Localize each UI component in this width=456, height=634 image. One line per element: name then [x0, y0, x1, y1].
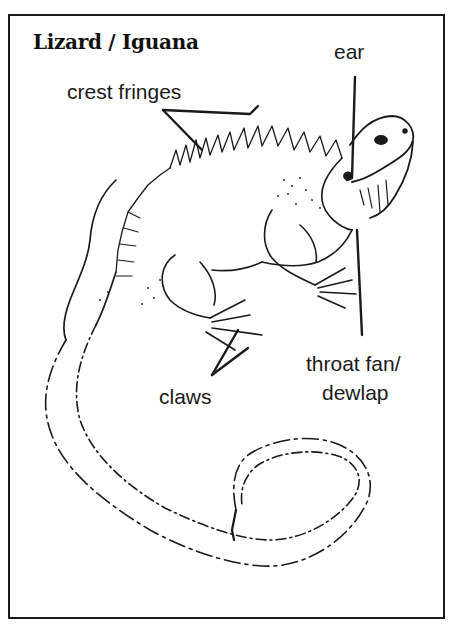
iguana-body — [64, 158, 352, 340]
iguana-tail — [46, 325, 371, 566]
callout-lines — [163, 77, 362, 375]
crest-spikes — [116, 126, 342, 276]
skin-texture — [99, 177, 321, 305]
front-leg — [265, 210, 357, 308]
iguana-illustration — [0, 0, 456, 634]
